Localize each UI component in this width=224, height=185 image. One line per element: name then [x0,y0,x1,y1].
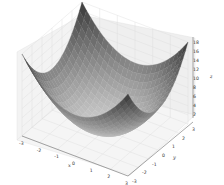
x-tick-label: -1 [54,154,59,159]
y-tick-label: -1 [152,162,157,167]
y-tick-label: 1 [172,144,175,149]
z-tick-label: 14 [193,58,199,63]
surface-plot: -3-2-10123 -3-2-10123 24681012141618 x y… [0,0,224,185]
x-tick-label: 3 [125,181,128,185]
z-axis-label: z [209,73,213,79]
y-tick-label: 2 [182,136,185,141]
x-tick-label: 0 [72,161,75,166]
z-axis-ticks: 24681012141618 [193,40,199,118]
y-tick-label: 0 [162,153,165,158]
y-tick-label: -3 [132,179,137,184]
x-tick-label: -2 [37,148,42,153]
z-tick-label: 18 [193,40,199,45]
x-axis-label: x [68,162,71,168]
x-tick-label: -3 [19,141,24,146]
z-tick-label: 8 [193,85,196,90]
y-tick-label: -2 [142,170,147,175]
y-axis-label: y [172,154,176,161]
x-tick-label: 1 [90,168,93,173]
z-tick-label: 6 [193,94,196,99]
y-tick-label: 3 [192,127,195,132]
z-tick-label: 10 [193,76,199,81]
z-tick-label: 2 [193,112,196,117]
x-tick-label: 2 [107,174,110,179]
z-tick-label: 12 [193,67,199,72]
z-tick-label: 16 [193,49,199,54]
z-tick-label: 4 [193,103,196,108]
